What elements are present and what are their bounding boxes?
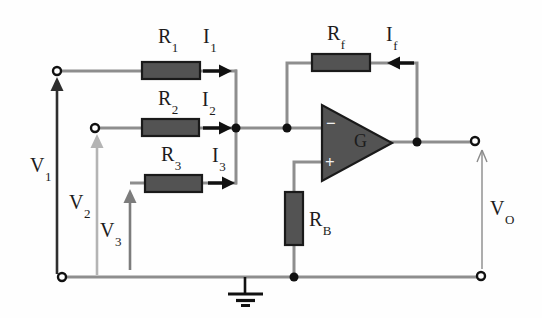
label-r3: R3 <box>161 144 181 168</box>
resistor-rf <box>312 54 370 71</box>
circuit-svg <box>0 0 542 318</box>
vo-voltage-arrow-icon <box>477 150 487 269</box>
label-rb: RB <box>309 209 331 233</box>
label-r2: R2 <box>158 88 178 112</box>
output-node <box>413 138 422 147</box>
bottom-left-terminal <box>58 273 66 281</box>
label-v3: V3 <box>100 220 121 244</box>
resistor-r1 <box>142 62 200 79</box>
label-opamp-gain: G <box>354 132 367 150</box>
v1-terminal <box>53 67 61 75</box>
label-rf: Rf <box>327 23 345 47</box>
v2-terminal <box>91 124 99 132</box>
resistor-r3 <box>145 175 202 192</box>
label-v2: V2 <box>69 192 90 216</box>
current-arrow-i1-icon <box>203 65 232 78</box>
label-if: If <box>386 24 397 48</box>
label-i1: I1 <box>203 26 216 50</box>
label-i3: I3 <box>212 145 225 169</box>
label-i2: I2 <box>202 89 215 113</box>
current-arrow-i3-icon <box>208 177 235 190</box>
ground-icon <box>228 277 263 306</box>
v3-voltage-arrow-icon <box>124 189 137 270</box>
noninverting-input-wire <box>294 162 322 193</box>
current-arrow-if-icon <box>387 57 414 70</box>
label-r1: R1 <box>158 26 178 50</box>
v1-voltage-arrow-icon <box>51 77 64 274</box>
current-arrow-i2-icon <box>203 122 232 135</box>
v2-voltage-arrow-icon <box>91 134 104 275</box>
ground-rail-node <box>290 273 299 282</box>
bottom-right-terminal <box>477 272 485 280</box>
label-vo: VO <box>490 198 514 222</box>
resistor-r2 <box>142 119 199 136</box>
inverting-input-icon: − <box>326 115 336 132</box>
circuit-figure: R1 I1 R2 I2 R3 I3 Rf If RB V1 V2 V3 VO G… <box>0 0 542 318</box>
noninverting-input-icon: + <box>325 154 335 171</box>
resistor-rb <box>285 192 303 245</box>
summing-junction-node <box>232 124 241 133</box>
output-terminal <box>471 137 479 145</box>
label-v1: V1 <box>30 155 51 179</box>
inverting-input-node <box>283 124 292 133</box>
